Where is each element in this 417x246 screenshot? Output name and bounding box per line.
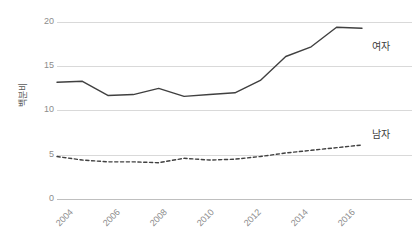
series-line-male: [57, 145, 362, 163]
series-label-female: 여자: [372, 38, 390, 53]
line-chart: 백분비 20 15 10 5 0 2004 2006 2008 2010 201…: [0, 0, 417, 246]
series-line-female: [57, 27, 362, 96]
series-label-male: 남자: [372, 126, 390, 141]
